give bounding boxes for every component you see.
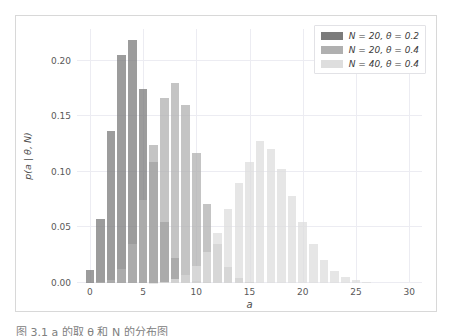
x-tick-label: 0	[87, 287, 93, 297]
legend-label: N = 20, θ = 0.4	[349, 45, 419, 55]
legend-item: N = 20, θ = 0.2	[321, 30, 419, 41]
bar	[352, 280, 361, 283]
legend: N = 20, θ = 0.2N = 20, θ = 0.4N = 40, θ …	[314, 25, 426, 74]
bar	[203, 252, 212, 283]
x-axis-label: a	[77, 299, 422, 310]
legend-swatch-icon	[321, 32, 343, 40]
legend-item: N = 40, θ = 0.4	[321, 58, 419, 69]
bar	[181, 275, 190, 283]
bar	[171, 279, 180, 283]
bar	[107, 131, 116, 283]
figure-caption: 图 3.1 a 的取 θ 和 N 的分布图	[16, 326, 316, 336]
bar	[309, 244, 318, 283]
bar	[192, 266, 201, 283]
bar	[288, 196, 297, 283]
y-tick-label: 0.05	[51, 222, 71, 232]
bar	[139, 200, 148, 283]
bar	[96, 282, 105, 283]
x-tick-label: 15	[244, 287, 255, 297]
bar	[171, 83, 180, 283]
y-tick-label: 0.15	[51, 111, 71, 121]
legend-label: N = 40, θ = 0.4	[349, 59, 419, 69]
legend-label: N = 20, θ = 0.2	[349, 31, 419, 41]
bar	[213, 233, 222, 283]
bar	[160, 98, 169, 283]
figure-panel: 0.000.050.100.150.20 p(a | θ, N) 0510152…	[15, 15, 437, 312]
legend-item: N = 20, θ = 0.4	[321, 44, 419, 55]
bar	[96, 219, 105, 283]
bar	[117, 269, 126, 283]
bar	[86, 270, 95, 283]
x-tick-label: 25	[350, 287, 361, 297]
bar	[192, 153, 201, 283]
y-tick-label: 0.00	[51, 278, 71, 288]
y-tick-label: 0.20	[51, 56, 71, 66]
bar	[341, 277, 350, 283]
gridline-vertical	[90, 29, 91, 283]
bar	[245, 162, 254, 283]
x-tick-label: 5	[140, 287, 146, 297]
y-tick-label: 0.10	[51, 167, 71, 177]
bar	[235, 183, 244, 283]
legend-swatch-icon	[321, 46, 343, 54]
x-tick-label: 30	[403, 287, 414, 297]
x-tick-label: 10	[191, 287, 202, 297]
legend-swatch-icon	[321, 60, 343, 68]
bar	[117, 55, 126, 283]
bar	[267, 149, 276, 283]
bar	[128, 244, 137, 283]
bar	[320, 260, 329, 283]
bar	[298, 222, 307, 283]
bar	[330, 271, 339, 283]
bar	[107, 280, 116, 283]
x-tick-label: 20	[297, 287, 308, 297]
bar	[181, 105, 190, 283]
bar	[256, 141, 265, 283]
bar	[362, 282, 371, 283]
y-axis-label: p(a | θ, N)	[22, 29, 36, 283]
bar	[224, 209, 233, 283]
bar	[160, 282, 169, 283]
bar	[149, 145, 158, 283]
bar	[277, 169, 286, 283]
